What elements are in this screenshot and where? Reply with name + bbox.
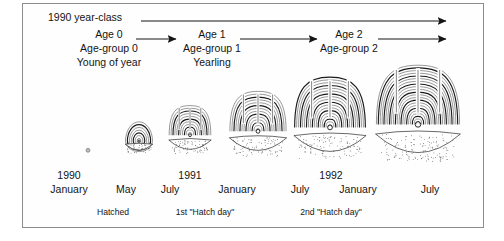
month-label-5: January [339, 183, 376, 195]
month-label-4: July [291, 183, 310, 195]
age-label-1: Age 1 [198, 28, 225, 40]
month-label-2: July [161, 183, 180, 195]
age-group-label-0: Age-group 0 [80, 42, 138, 54]
year-class-label: 1990 year-class [48, 11, 122, 23]
age-label-2: Age 2 [335, 28, 362, 40]
year-label-1990: 1990 [57, 169, 80, 181]
event-label-hatched: Hatched [97, 206, 129, 218]
year-label-1992: 1992 [319, 169, 342, 181]
year-label-1991: 1991 [178, 169, 201, 181]
stage-label-0: Young of year [77, 56, 141, 68]
event-label-2nd-hatch-day: 2nd "Hatch day" [300, 206, 362, 218]
age-group-label-2: Age-group 2 [320, 42, 378, 54]
event-label-1st-hatch-day: 1st "Hatch day" [176, 206, 235, 218]
month-label-0: January [50, 183, 87, 195]
age-label-0: Age 0 [95, 28, 122, 40]
stage-label-1: Yearling [193, 56, 231, 68]
month-label-1: May [116, 183, 136, 195]
age-group-label-1: Age-group 1 [183, 42, 241, 54]
otolith-growth-figure: 1990 year-class Age 0 Age-group 0 Young … [0, 0, 504, 241]
month-label-3: January [218, 183, 255, 195]
month-label-6: July [421, 183, 440, 195]
